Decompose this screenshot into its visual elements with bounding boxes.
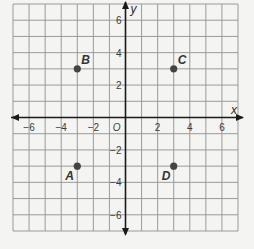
- x-tick-label: −2: [88, 122, 100, 133]
- y-tick-label: 4: [116, 48, 122, 59]
- point-c: [170, 65, 177, 72]
- point-label-c: C: [178, 53, 187, 67]
- x-tick-label: 4: [187, 122, 193, 133]
- y-axis-down-arrow-icon: [122, 228, 129, 236]
- x-tick-label: −6: [23, 122, 35, 133]
- x-axis-left-arrow-icon: [11, 114, 19, 121]
- y-axis-up-arrow-icon: [122, 1, 129, 9]
- point-a: [74, 163, 81, 170]
- y-tick-label: −2: [110, 145, 122, 156]
- y-tick-label: −6: [110, 210, 122, 221]
- point-label-d: D: [162, 169, 171, 183]
- point-d: [170, 163, 177, 170]
- x-tick-label: 6: [219, 122, 225, 133]
- y-axis-label: y: [130, 2, 138, 16]
- point-label-a: A: [64, 169, 74, 183]
- x-axis-right-arrow-icon: [236, 114, 244, 121]
- coordinate-plane: −6−4−2246642−2−4−6Oxy ABCD: [0, 0, 254, 249]
- x-tick-label: −4: [56, 122, 68, 133]
- point-label-b: B: [81, 53, 90, 67]
- y-tick-label: 2: [116, 80, 122, 91]
- y-tick-label: 6: [116, 15, 122, 26]
- x-tick-label: 2: [155, 122, 161, 133]
- x-axis-label: x: [230, 103, 238, 117]
- point-b: [74, 65, 81, 72]
- y-tick-label: −4: [110, 177, 122, 188]
- origin-label: O: [113, 122, 121, 133]
